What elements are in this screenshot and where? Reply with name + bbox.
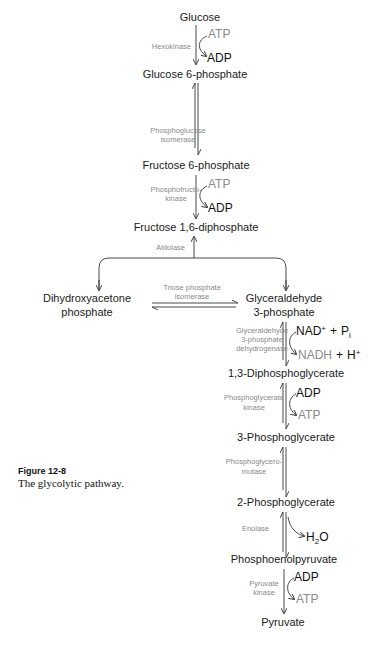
compound-1-3-diphosphoglycerate: 1,3-Diphosphoglycerate xyxy=(228,367,344,379)
glycolysis-diagram: Glucose Hexokinase ATP ADP Glucose 6-pho… xyxy=(0,0,388,648)
enzyme-pyruvate-kinase-line1: Pyruvate xyxy=(249,579,279,588)
cofactor-atp-out: ATP xyxy=(296,592,318,606)
cofactor-atp-in: ATP xyxy=(208,27,230,41)
cofactor-adp-out: ADP xyxy=(208,201,233,215)
figure-label: Figure 12-8 xyxy=(18,466,66,476)
compound-fructose-1-6-diphosphate: Fructose 1,6-diphosphate xyxy=(134,221,259,233)
enzyme-hexokinase: Hexokinase xyxy=(152,42,191,51)
cofactor-h2o: H2O xyxy=(306,530,328,546)
compound-2-phosphoglycerate: 2-Phosphoglycerate xyxy=(237,496,335,508)
cofactor-atp-out: ATP xyxy=(298,408,320,422)
cofactor-adp-in: ADP xyxy=(296,386,321,400)
enzyme-gapdh-line1: Glyceraldehyde xyxy=(236,326,288,335)
enzyme-triose-phosphate-isomerase-line2: isomerase xyxy=(175,292,210,301)
compound-glucose: Glucose xyxy=(180,11,220,23)
compound-3-phosphoglycerate: 3-Phosphoglycerate xyxy=(237,431,335,443)
enzyme-phosphoglucose-isomerase-line1: Phosphoglucose xyxy=(150,126,205,135)
enzyme-aldolase: Aldolase xyxy=(156,243,185,252)
enzyme-phosphoglucose-isomerase-line2: isomerase xyxy=(161,135,196,144)
enzyme-enolase: Enolase xyxy=(242,524,269,533)
enzyme-phosphoglyceromutase-line2: mutase xyxy=(242,467,267,476)
enzyme-phosphoglycerate-kinase-line1: Phosphoglycerate xyxy=(224,393,284,402)
compound-glyceraldehyde-3-phosphate-line1: Glyceraldehyde xyxy=(246,292,322,304)
enzyme-phosphoglyceromutase-line1: Phosphoglycero- xyxy=(226,457,283,466)
enzyme-phosphofructokinase-line1: Phosphofructo- xyxy=(151,185,202,194)
cofactor-nad-pi: NAD++Pi xyxy=(296,324,351,340)
cofactor-adp-in: ADP xyxy=(294,570,319,584)
enzyme-pyruvate-kinase-line2: kinase xyxy=(253,588,275,597)
compound-dihydroxyacetone-phosphate-line1: Dihydroxyacetone xyxy=(43,292,131,304)
cofactor-curve-arrow xyxy=(199,36,207,56)
compound-pyruvate: Pyruvate xyxy=(261,616,304,628)
cofactor-adp-out: ADP xyxy=(207,51,232,65)
compound-glucose-6-phosphate: Glucose 6-phosphate xyxy=(143,68,248,80)
enzyme-phosphoglycerate-kinase-line2: kinase xyxy=(243,403,265,412)
cofactor-atp-in: ATP xyxy=(208,177,230,191)
figure-caption: The glycolytic pathway. xyxy=(18,477,124,489)
water-release-arrow xyxy=(288,517,304,536)
enzyme-gapdh-line3: dehydrogenase xyxy=(236,344,288,353)
compound-dihydroxyacetone-phosphate-line2: phosphate xyxy=(61,306,112,318)
compound-glyceraldehyde-3-phosphate-line2: 3-phosphate xyxy=(253,306,314,318)
compound-fructose-6-phosphate: Fructose 6-phosphate xyxy=(142,159,249,171)
compound-phosphoenolpyruvate: Phosphoenolpyruvate xyxy=(231,553,337,565)
cofactor-nadh-h: NADH+H+ xyxy=(298,348,361,362)
enzyme-phosphofructokinase-line2: kinase xyxy=(165,194,187,203)
enzyme-gapdh-line2: 3-phosphate xyxy=(241,335,283,344)
enzyme-triose-phosphate-isomerase-line1: Triose phosphate xyxy=(163,283,221,292)
